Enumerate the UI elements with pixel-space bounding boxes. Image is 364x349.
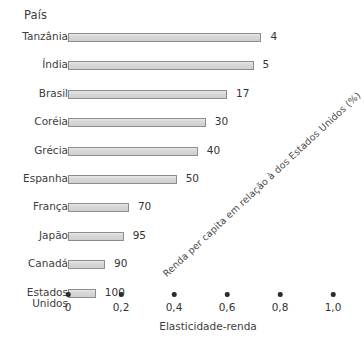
bar-value-label: 70 bbox=[138, 200, 151, 212]
bar-value-label: 5 bbox=[263, 58, 270, 70]
bar bbox=[68, 289, 96, 298]
bar bbox=[68, 203, 129, 212]
category-label: Japão bbox=[0, 230, 68, 242]
bar-row: Brasil17 bbox=[0, 88, 364, 116]
x-tick-label: 0,6 bbox=[219, 301, 236, 313]
category-label: Espanha bbox=[0, 173, 68, 185]
bar-value-label: 90 bbox=[114, 257, 127, 269]
x-tick-label: 1,0 bbox=[325, 301, 342, 313]
x-tick-dot bbox=[66, 292, 71, 297]
x-tick-dot bbox=[172, 292, 177, 297]
bar bbox=[68, 232, 124, 241]
bar-row: Espanha50 bbox=[0, 173, 364, 201]
category-label: Coréia bbox=[0, 116, 68, 128]
bar bbox=[68, 175, 177, 184]
category-label: Tanzânia bbox=[0, 31, 68, 43]
bar-row: França70 bbox=[0, 201, 364, 229]
x-tick-label: 0,8 bbox=[272, 301, 289, 313]
y-axis-title: País bbox=[24, 8, 47, 22]
category-label: Canadá bbox=[0, 258, 68, 270]
category-label: Brasil bbox=[0, 88, 68, 100]
x-tick-dot bbox=[225, 292, 230, 297]
category-label: França bbox=[0, 201, 68, 213]
income-elasticity-bar-chart: País Tanzânia4Índia5Brasil17Coréia30Gréc… bbox=[0, 0, 364, 349]
bar-value-label: 4 bbox=[270, 30, 277, 42]
bar-value-label: 17 bbox=[236, 87, 249, 99]
bar-value-label: 95 bbox=[133, 229, 146, 241]
x-axis-title-text: Elasticidade-renda bbox=[159, 320, 257, 332]
bar-value-label: 50 bbox=[186, 172, 199, 184]
x-tick-label: 0 bbox=[65, 301, 72, 313]
bar bbox=[68, 33, 261, 42]
bar bbox=[68, 61, 254, 70]
bar-row: Tanzânia4 bbox=[0, 31, 364, 59]
bar bbox=[68, 90, 227, 99]
x-tick-label: 0,4 bbox=[166, 301, 183, 313]
x-tick-dot bbox=[119, 292, 124, 297]
bar-row: Grécia40 bbox=[0, 145, 364, 173]
bar bbox=[68, 118, 206, 127]
bar-value-label: 30 bbox=[215, 115, 228, 127]
bar-value-label: 40 bbox=[207, 144, 220, 156]
x-axis-title: Elasticidade-renda bbox=[0, 320, 364, 332]
category-label: Estados Unidos bbox=[0, 287, 68, 310]
category-label: Grécia bbox=[0, 145, 68, 157]
category-label: Índia bbox=[0, 59, 68, 71]
bar bbox=[68, 147, 198, 156]
bar-row: Índia5 bbox=[0, 59, 364, 87]
x-tick-dot bbox=[331, 292, 336, 297]
bar bbox=[68, 260, 105, 269]
x-tick-dot bbox=[278, 292, 283, 297]
x-tick-label: 0,2 bbox=[113, 301, 130, 313]
